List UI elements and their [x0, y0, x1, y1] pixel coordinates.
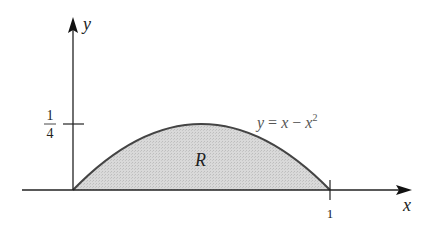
eq-x2: x — [304, 114, 312, 131]
x-axis-label: x — [402, 195, 411, 215]
eq-equals: = — [264, 114, 281, 131]
y-tick-label-denominator: 4 — [47, 126, 54, 141]
curve-equation-label: y = x − x2 — [255, 112, 317, 132]
y-tick-label-numerator: 1 — [47, 108, 54, 123]
eq-x1: x — [280, 114, 288, 131]
eq-minus: − — [288, 114, 305, 131]
eq-exponent: 2 — [312, 112, 317, 123]
x-tick-label-one: 1 — [327, 206, 334, 221]
y-axis-label: y — [81, 14, 91, 34]
region-label: R — [194, 150, 206, 170]
region-diagram: y x 1 4 1 R y = x − x2 — [0, 0, 430, 228]
